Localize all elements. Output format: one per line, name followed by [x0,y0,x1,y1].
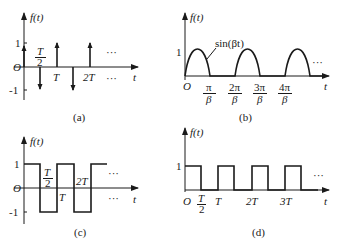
xtick-3T: 3T [279,195,293,207]
xlabel: t [324,80,328,92]
svg-text:β: β [256,93,263,105]
ytick-1: 1 [176,160,182,172]
xtick-T-half-den: 2 [199,203,205,215]
svg-text:3π: 3π [254,81,266,93]
ellipsis: ··· [106,46,117,58]
xtick-4pi-over-beta: 4π β [278,81,292,105]
ellipsis: ··· [108,192,119,204]
xtick-2T: 2T [83,71,96,83]
signal-curve [185,49,322,76]
origin-label: O [183,195,191,207]
xtick-pi-over-beta: π β [203,81,216,105]
panel-d: f(t) t O 1 T 2 T 2T 3T ··· (d) [176,126,329,239]
ylabel: f(t) [190,11,204,24]
ytick-1: 1 [176,46,182,58]
ytick-minus1: -1 [9,84,18,96]
xlabel: t [133,71,137,83]
xtick-2T: 2T [246,195,259,207]
ytick-1: 1 [14,158,20,170]
xtick-3pi-over-beta: 3π β [253,81,267,105]
caption-d: (d) [252,226,265,239]
svg-text:β: β [231,93,238,105]
xtick-T: T [59,191,66,203]
xtick-T-half-den: 2 [37,56,43,68]
annotation-leader [207,48,216,59]
panel-b: f(t) t O 1 sin(βt) ··· π β 2π β 3π β 4π … [176,11,329,124]
panel-a: f(t) t O 1 -1 T 2 T 2T ··· ··· (a) [9,11,138,124]
xtick-2T: 2T [76,175,89,187]
ylabel: f(t) [190,126,204,139]
origin-label: O [13,182,21,194]
ellipsis: ··· [313,169,324,181]
curve-label: sin(βt) [215,37,244,50]
signal-curve [185,166,318,190]
panel-c: f(t) t O 1 -1 T 2 T 2T ··· ··· (c) [9,135,138,239]
xlabel: t [324,195,328,207]
origin-label: O [183,80,191,92]
svg-text:π: π [206,81,212,93]
caption-c: (c) [74,226,87,239]
xtick-2pi-over-beta: 2π β [228,81,242,105]
ellipsis: ··· [108,167,119,179]
ellipsis: ··· [106,72,117,84]
figure-canvas: f(t) t O 1 -1 T 2 T 2T ··· ··· (a) f(t) … [0,0,338,245]
svg-text:β: β [205,93,212,105]
ylabel: f(t) [30,135,44,148]
ylabel: f(t) [30,11,44,24]
ytick-minus1: -1 [9,206,18,218]
xtick-T: T [215,195,222,207]
ellipsis: ··· [312,56,323,68]
xtick-T: T [53,71,60,83]
svg-text:2π: 2π [229,81,241,93]
xlabel: t [133,193,137,205]
svg-text:β: β [281,93,288,105]
ytick-1: 1 [15,37,21,49]
xtick-T-half-den: 2 [45,177,51,189]
svg-text:4π: 4π [279,81,291,93]
caption-a: (a) [73,111,86,124]
caption-b: (b) [239,111,252,124]
origin-label: O [13,61,21,73]
